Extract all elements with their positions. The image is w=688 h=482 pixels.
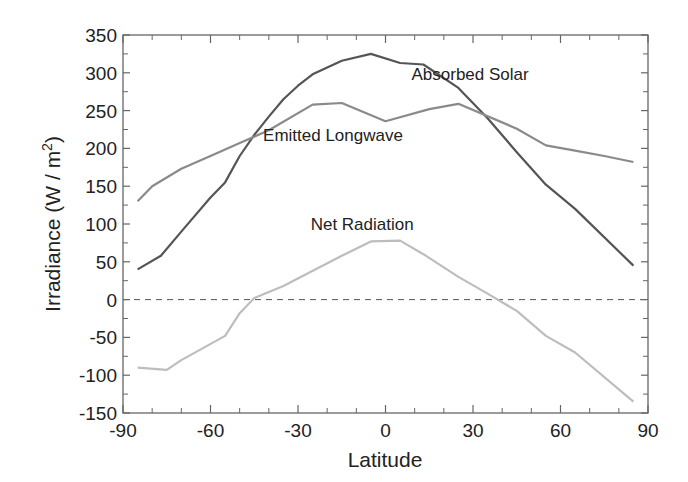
series-label-absorbed-solar: Absorbed Solar [411,65,529,84]
y-tick-label: -100 [79,365,117,386]
series-labels: Absorbed SolarEmitted LongwaveNet Radiat… [263,65,529,234]
series-line-emitted-longwave [138,103,634,201]
x-tick-label: -60 [197,420,224,441]
x-axis: -90-60-300306090 [109,35,658,441]
x-tick-label: -30 [284,420,311,441]
irradiance-latitude-chart: 350300250200150100500-50-100-150 -90-60-… [0,0,688,482]
x-tick-label: -90 [109,420,136,441]
series-label-net-radiation: Net Radiation [311,215,414,234]
series-label-emitted-longwave: Emitted Longwave [263,126,403,145]
y-tick-label: -50 [90,327,117,348]
y-tick-label: 350 [85,25,117,46]
x-tick-label: 90 [637,420,658,441]
y-tick-label: 150 [85,176,117,197]
series-line-absorbed-solar [138,54,634,270]
x-tick-label: 0 [380,420,391,441]
y-tick-label: 50 [96,252,117,273]
y-tick-label: 250 [85,101,117,122]
y-tick-label: 0 [106,290,117,311]
y-tick-label: 300 [85,63,117,84]
x-axis-label: Latitude [348,448,423,471]
x-tick-label: 30 [462,420,483,441]
y-axis-label: Irradiance (W / m2) [39,136,64,312]
y-tick-label: 100 [85,214,117,235]
y-tick-label: 200 [85,138,117,159]
series-line-net-radiation [138,241,634,402]
x-tick-label: 60 [550,420,571,441]
